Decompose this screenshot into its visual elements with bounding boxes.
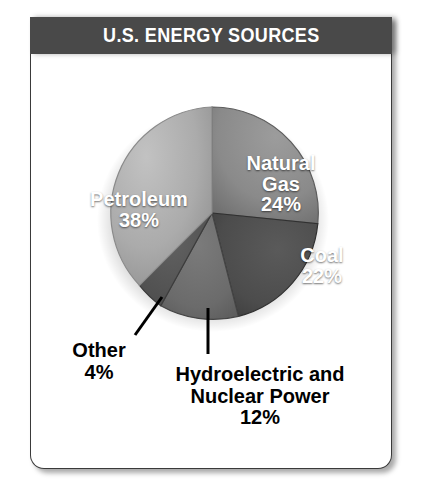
- slice-label-coal: Coal 22%: [269, 224, 375, 307]
- slice-label-hydroelectric-nuclear-percent: 12%: [137, 407, 383, 429]
- page-title: U.S. ENERGY SOURCES: [103, 24, 320, 47]
- slice-label-natural-gas-name: Natural Gas: [247, 152, 316, 195]
- slice-label-coal-name: Coal: [300, 244, 343, 266]
- slice-label-natural-gas: Natural Gas 24%: [227, 132, 335, 236]
- slice-label-petroleum: Petroleum 38%: [69, 168, 209, 251]
- slice-label-petroleum-name: Petroleum: [90, 188, 188, 210]
- slice-label-petroleum-percent: 38%: [69, 210, 209, 231]
- slice-label-hydroelectric-nuclear-name: Hydroelectric and Nuclear Power: [176, 363, 345, 407]
- slice-label-hydroelectric-nuclear: Hydroelectric and Nuclear Power 12%: [137, 364, 383, 429]
- pie-chart: Petroleum 38% Natural Gas 24% Coal 22% O…: [31, 54, 391, 468]
- slice-label-coal-percent: 22%: [269, 266, 375, 287]
- slice-label-other-name: Other: [72, 339, 125, 361]
- slice-label-natural-gas-percent: 24%: [227, 194, 335, 215]
- chart-title-bar: U.S. ENERGY SOURCES: [30, 17, 392, 54]
